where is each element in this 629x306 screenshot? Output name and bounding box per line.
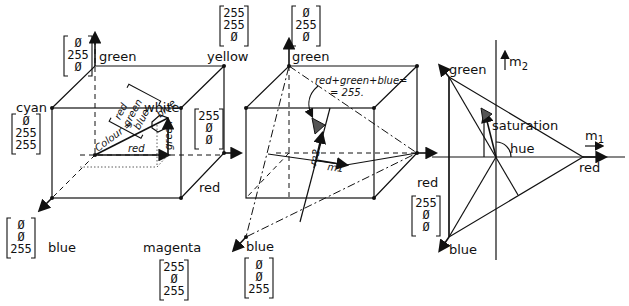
vector-cyan: Ø 255 255 bbox=[12, 114, 40, 154]
label-inner-green: green bbox=[163, 121, 174, 150]
cube2-vector-blue-b: 255 bbox=[248, 282, 270, 296]
label-cyan: cyan bbox=[16, 100, 47, 115]
vector-yellow-b: Ø bbox=[230, 30, 238, 44]
plane-label-m2: m2 bbox=[509, 54, 528, 72]
plane-label-green: green bbox=[449, 62, 487, 77]
cube1-blue-arrow bbox=[40, 198, 52, 210]
cube2-vector-green: Ø 255 Ø bbox=[292, 6, 320, 46]
label-green: green bbox=[99, 49, 137, 64]
hue-arc bbox=[496, 142, 511, 157]
m1-subscript: 1 bbox=[598, 134, 604, 145]
plane-equation-line1: red+green+blue= bbox=[315, 75, 407, 86]
rgb-cube-2: green red blue m1 m2 red+green+blue= = 2… bbox=[234, 6, 440, 298]
plane-point-marker bbox=[312, 118, 325, 134]
vector-magenta-b: 255 bbox=[163, 284, 185, 298]
rgb-color-space-diagram: green yellow cyan white red blue magenta… bbox=[0, 0, 629, 306]
cube2-label-green: green bbox=[292, 49, 330, 64]
cube2-label-red: red bbox=[417, 175, 438, 190]
median-blue bbox=[449, 157, 496, 237]
vector-cyan-b: 255 bbox=[15, 138, 37, 152]
cube1-right-face bbox=[181, 66, 224, 198]
equation-pointer bbox=[309, 86, 318, 116]
cube2-vector-green-b: Ø bbox=[302, 30, 310, 44]
plane-label-blue: blue bbox=[449, 242, 477, 257]
label-magenta: magenta bbox=[143, 240, 201, 255]
plane-blue-arrow bbox=[440, 237, 449, 250]
label-m1: m1 bbox=[327, 161, 344, 174]
vector-magenta: 255 Ø 255 bbox=[160, 260, 188, 300]
m2-subscript: 2 bbox=[522, 61, 528, 72]
plane-green-arrow bbox=[440, 66, 449, 77]
plane-equation-line2: = 255. bbox=[330, 87, 364, 98]
cube2-blue-hidden bbox=[246, 153, 289, 198]
vector-green: Ø 255 Ø bbox=[64, 36, 92, 76]
label-red: red bbox=[199, 180, 220, 195]
vector-blue-b: 255 bbox=[10, 242, 32, 256]
vector-red-b: Ø bbox=[205, 133, 213, 147]
m2-main: m bbox=[509, 54, 522, 69]
vector-red: 255 Ø Ø bbox=[195, 109, 223, 149]
label-m2: m2 bbox=[307, 148, 322, 166]
label-saturation: saturation bbox=[492, 118, 558, 133]
cube1-blue-axis-hidden bbox=[52, 155, 95, 198]
label-blue: blue bbox=[48, 240, 76, 255]
label-inner-red: red bbox=[128, 143, 145, 154]
plane-label-m1: m1 bbox=[585, 128, 604, 145]
m1-main: m bbox=[585, 128, 598, 143]
cube2-vector-red-b: Ø bbox=[422, 220, 430, 234]
cube2-blue-arrow bbox=[234, 237, 246, 250]
diagram-canvas: green yellow cyan white red blue magenta… bbox=[0, 0, 629, 306]
cube2-vector-red: 255 Ø Ø bbox=[412, 196, 440, 236]
label-hue: hue bbox=[510, 141, 534, 156]
vector-yellow: 255 255 Ø bbox=[220, 6, 248, 46]
vector-blue: Ø Ø 255 bbox=[7, 218, 35, 258]
m1-to-red bbox=[346, 153, 417, 165]
plane-label-red: red bbox=[579, 160, 600, 175]
vector-green-b: Ø bbox=[74, 60, 82, 74]
cube2-label-blue: blue bbox=[246, 239, 274, 254]
cube2-vector-blue: Ø Ø 255 bbox=[245, 258, 273, 298]
hue-saturation-plane: green red blue saturation hue m2 m1 bbox=[432, 40, 625, 260]
label-yellow: yellow bbox=[207, 49, 249, 64]
rgb-cube-1: green yellow cyan white red blue magenta… bbox=[7, 6, 249, 300]
